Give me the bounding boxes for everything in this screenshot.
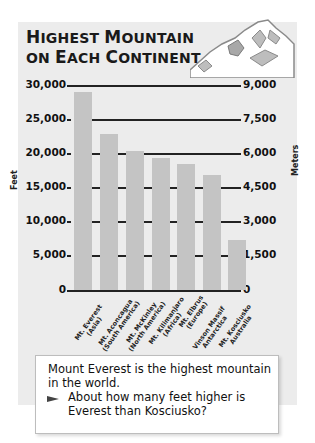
tick-mark — [237, 187, 241, 189]
gridline-segment — [195, 187, 203, 189]
y-tick-label: 25,000 — [0, 112, 66, 124]
arrow-bullet-icon — [47, 396, 59, 402]
gridline-segment — [195, 255, 203, 257]
tick-mark — [67, 221, 71, 223]
bar-mckinley — [126, 151, 144, 290]
gridline-segment — [118, 187, 126, 189]
chart-title: HIGHEST MOUNTAIN ON EACH CONTINENT — [26, 28, 201, 68]
gridline-30000 — [71, 85, 237, 87]
tick-mark — [237, 119, 241, 121]
bar-elbrus — [177, 164, 195, 290]
y2-tick-label: 7,500 — [243, 112, 276, 124]
tick-mark — [67, 187, 71, 189]
gridline-segment — [118, 153, 126, 155]
y2-tick-label: 6,000 — [243, 146, 276, 158]
tick-mark — [67, 119, 71, 121]
tick-mark — [237, 221, 241, 223]
gridline-20000 — [144, 153, 237, 155]
gridline-segment — [170, 221, 177, 223]
gridline-segment — [170, 255, 177, 257]
x-axis-baseline — [67, 290, 241, 292]
y-tick-label: 5,000 — [0, 248, 66, 260]
y-tick-label: 10,000 — [0, 214, 66, 226]
tick-mark — [67, 255, 71, 257]
y2-tick-label: 3,000 — [243, 214, 276, 226]
y-axis-title-right: Meters — [291, 145, 300, 176]
gridline-segment — [92, 221, 100, 223]
gridline-segment — [221, 255, 228, 257]
gridline-segment — [144, 255, 152, 257]
bar-vinson — [203, 175, 221, 290]
tick-mark — [67, 153, 71, 155]
tick-mark — [237, 85, 241, 87]
gridline-segment — [195, 221, 203, 223]
mountain-illustration-icon — [190, 8, 300, 78]
question-statement: Mount Everest is the highest mountain in… — [48, 362, 273, 390]
bar-kosciusko — [228, 240, 246, 290]
question-box: Mount Everest is the highest mountain in… — [35, 355, 279, 434]
gridline-segment — [118, 221, 126, 223]
gridline-segment — [170, 187, 177, 189]
y-tick-label: 20,000 — [0, 146, 66, 158]
y2-tick-label: 4,500 — [243, 180, 276, 192]
gridline-segment — [92, 187, 100, 189]
y-axis-title-left: Feet — [10, 170, 19, 190]
gridline-segment — [118, 255, 126, 257]
tick-mark — [237, 153, 241, 155]
y-tick-label: 30,000 — [0, 78, 66, 90]
gridline-segment — [92, 255, 100, 257]
bar-kilimanjaro — [152, 158, 170, 290]
question-prompt: About how many feet higher is Everest th… — [68, 390, 268, 418]
gridline-segment — [221, 187, 237, 189]
bar-aconcagua — [100, 134, 118, 290]
gridline-segment — [144, 221, 152, 223]
bar-everest — [74, 92, 92, 290]
gridline-segment — [221, 221, 237, 223]
y-tick-label: 0 — [0, 283, 66, 295]
gridline-segment — [144, 187, 152, 189]
gridline-segment — [92, 153, 100, 155]
y2-tick-label: 9,000 — [243, 78, 276, 90]
gridline-25000 — [92, 119, 237, 121]
y2-tick-label: 1,500 — [243, 248, 276, 260]
